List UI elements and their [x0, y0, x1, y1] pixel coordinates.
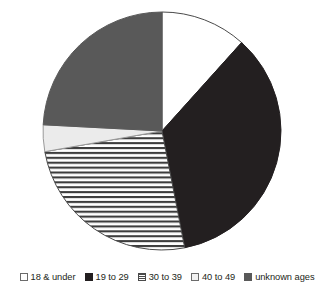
legend-label-18-under: 18 & under [31, 272, 76, 282]
legend-item-40-to-49[interactable]: 40 to 49 [191, 272, 235, 282]
dark-gray-swatch [244, 273, 252, 281]
gray-striped-swatch [138, 273, 146, 281]
black-swatch [85, 273, 93, 281]
legend-label-40-to-49: 40 to 49 [202, 272, 235, 282]
pie-slice-group [43, 12, 281, 250]
legend-label-30-to-39: 30 to 39 [149, 272, 182, 282]
white-swatch [20, 273, 28, 281]
chart-legend: 18 & under19 to 2930 to 3940 to 49unknow… [0, 258, 334, 296]
pie-slice-30-to-39[interactable] [45, 131, 185, 250]
legend-item-18-under[interactable]: 18 & under [20, 272, 76, 282]
light-gray-swatch [191, 273, 199, 281]
legend-item-19-to-29[interactable]: 19 to 29 [85, 272, 129, 282]
legend-item-30-to-39[interactable]: 30 to 39 [138, 272, 182, 282]
legend-label-unknown-ages: unknown ages [255, 272, 314, 282]
pie-chart-plot-area [0, 0, 334, 258]
pie-chart-svg [0, 0, 334, 258]
legend-item-unknown-ages[interactable]: unknown ages [244, 272, 314, 282]
pie-chart-figure: 18 & under19 to 2930 to 3940 to 49unknow… [0, 0, 334, 296]
pie-slice-unknown-ages[interactable] [43, 12, 162, 131]
legend-label-19-to-29: 19 to 29 [96, 272, 129, 282]
